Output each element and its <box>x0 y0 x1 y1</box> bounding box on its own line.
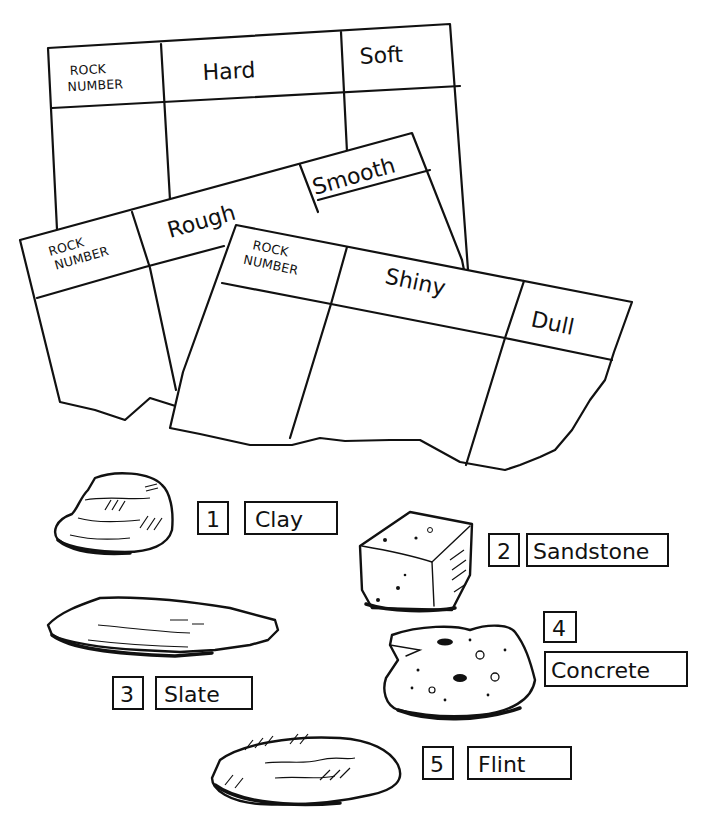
concrete-rock-icon <box>384 626 535 719</box>
rock-name-concrete: Concrete <box>551 658 650 683</box>
rock-name-flint: Flint <box>478 752 526 777</box>
sandstone-rock-icon <box>360 512 472 611</box>
rock-name-sandstone: Sandstone <box>533 539 649 564</box>
table-lustre: ROCK NUMBER Shiny Dull <box>170 225 632 470</box>
clay-rock-icon <box>55 473 172 553</box>
rock-number-3: 3 <box>120 682 134 707</box>
table-hardness-header-hard: Hard <box>202 57 256 85</box>
slate-rock-icon <box>48 597 278 656</box>
rock-name-clay: Clay <box>255 507 303 532</box>
table-lustre-sheet <box>170 225 632 470</box>
rock-item-concrete: 4 Concrete <box>384 612 687 719</box>
rock-number-4: 4 <box>552 616 566 641</box>
rock-item-sandstone: 2 Sandstone <box>360 512 668 611</box>
flint-rock-icon <box>212 734 400 805</box>
rock-item-flint: 5 Flint <box>212 734 571 805</box>
rock-name-slate: Slate <box>164 682 220 707</box>
rock-item-clay: 1 Clay <box>55 473 337 553</box>
rock-item-slate: 3 Slate <box>48 597 278 709</box>
rock-classification-illustration: ROCK NUMBER Hard Soft ROCK NUMBER Rough … <box>0 0 709 826</box>
rock-number-1: 1 <box>206 507 220 532</box>
table-hardness-header-soft: Soft <box>359 42 404 69</box>
rock-number-2: 2 <box>497 539 511 564</box>
rock-number-5: 5 <box>430 752 444 777</box>
